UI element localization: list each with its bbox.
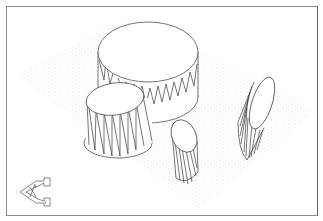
small-cylinder[interactable]	[84, 79, 152, 158]
ucs-y-label: Y	[44, 200, 47, 205]
drawing-canvas[interactable]: X Y	[0, 0, 323, 221]
ucs-icon: X Y	[20, 178, 50, 206]
ucs-x-label: X	[34, 184, 37, 189]
